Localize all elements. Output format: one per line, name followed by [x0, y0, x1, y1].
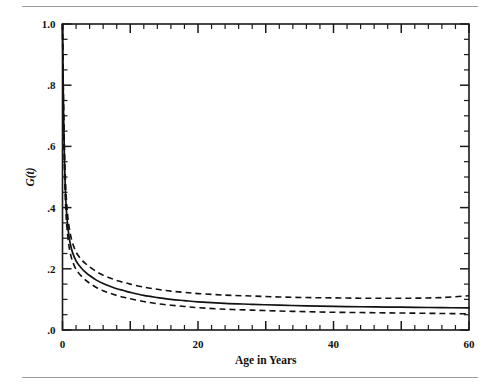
- x-tick-label: 20: [193, 338, 205, 350]
- axis-labels: 0204060.0.2.4.6.81.0Age in YearsG(t): [24, 18, 475, 367]
- x-axis-title: Age in Years: [235, 354, 297, 367]
- x-tick-label: 60: [464, 338, 476, 350]
- series-path-0: [63, 24, 470, 308]
- y-tick-label: 1.0: [42, 18, 56, 30]
- plot-frame: [63, 24, 470, 330]
- y-tick-label: .8: [47, 79, 56, 91]
- y-tick-label: .2: [47, 263, 56, 275]
- y-tick-label: .4: [47, 202, 56, 214]
- y-tick-label: .0: [47, 324, 56, 336]
- series-path-2: [63, 24, 470, 314]
- y-tick-label: .6: [47, 140, 56, 152]
- chart-plot: 0204060.0.2.4.6.81.0Age in YearsG(t): [0, 0, 485, 388]
- figure-container: 0204060.0.2.4.6.81.0Age in YearsG(t): [0, 0, 485, 388]
- series-layer: [63, 24, 470, 314]
- x-tick-label: 0: [60, 338, 66, 350]
- y-axis-title: G(t): [24, 167, 37, 186]
- axis-ticks: [63, 24, 470, 330]
- x-tick-label: 40: [328, 338, 340, 350]
- plot-border: [63, 24, 470, 330]
- series-path-1: [63, 24, 470, 298]
